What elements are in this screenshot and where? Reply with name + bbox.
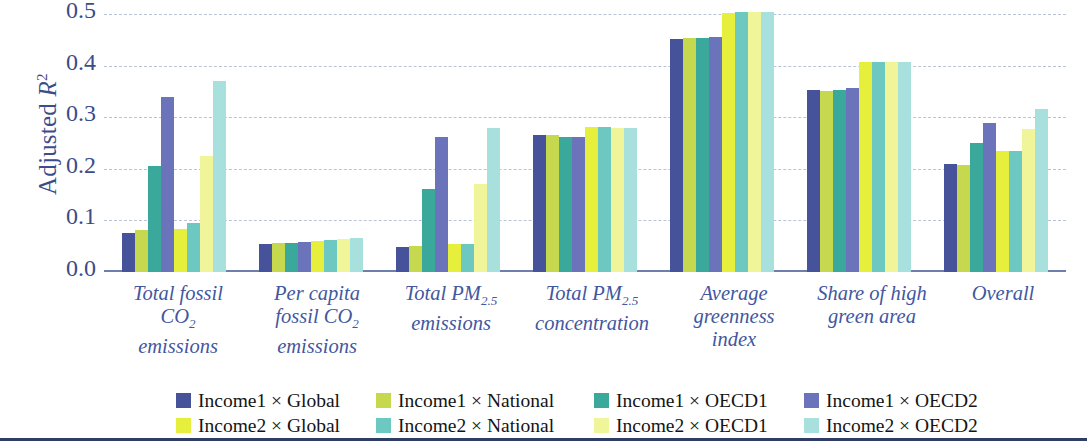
legend-item[interactable]: Income1 × OECD2 — [804, 390, 1009, 412]
bar[interactable] — [272, 243, 285, 272]
bar[interactable] — [135, 230, 148, 272]
bar[interactable] — [324, 240, 337, 272]
legend-label: Income2 × National — [398, 415, 554, 437]
x-axis-category-labels: Total fossilCO2emissionsPer capitafossil… — [104, 282, 1066, 378]
bar-chart: Adjusted R2 0.00.10.20.30.40.5 Total fos… — [0, 0, 1087, 441]
legend-label: Income1 × Global — [198, 390, 340, 412]
bar[interactable] — [200, 156, 213, 272]
bar[interactable] — [624, 128, 637, 272]
y-axis-title-symbol: R — [34, 81, 61, 96]
legend-label: Income2 × OECD2 — [826, 415, 978, 437]
bar[interactable] — [174, 229, 187, 272]
y-axis-tick-label: 0.5 — [40, 0, 96, 24]
y-axis-tick-label: 0.3 — [40, 100, 96, 127]
legend-item[interactable]: Income1 × National — [376, 390, 594, 412]
bar[interactable] — [846, 88, 859, 272]
chart-legend: Income1 × GlobalIncome1 × NationalIncome… — [176, 388, 1076, 438]
bar-group — [259, 14, 363, 272]
bar[interactable] — [996, 151, 1009, 272]
bar[interactable] — [337, 239, 350, 272]
bar[interactable] — [872, 62, 885, 272]
x-axis-category-label: Share of highgreen area — [801, 282, 943, 378]
bar[interactable] — [187, 223, 200, 272]
bar[interactable] — [474, 184, 487, 272]
legend-swatch — [176, 393, 191, 408]
legend-item[interactable]: Income2 × OECD1 — [594, 415, 804, 437]
bar[interactable] — [598, 127, 611, 272]
bar[interactable] — [161, 97, 174, 272]
bar[interactable] — [885, 62, 898, 272]
bar[interactable] — [670, 39, 683, 272]
bar[interactable] — [735, 12, 748, 272]
bar-group — [396, 14, 500, 272]
bar[interactable] — [957, 165, 970, 272]
bar[interactable] — [213, 81, 226, 272]
bar[interactable] — [409, 246, 422, 272]
legend-label: Income1 × OECD2 — [826, 390, 978, 412]
bar[interactable] — [559, 137, 572, 272]
bar[interactable] — [448, 244, 461, 272]
bar[interactable] — [546, 135, 559, 272]
bar[interactable] — [285, 243, 298, 272]
bar[interactable] — [298, 242, 311, 272]
bar[interactable] — [435, 137, 448, 272]
y-axis-tick-label: 0.2 — [40, 152, 96, 179]
legend-swatch — [804, 393, 819, 408]
x-axis-category-label: Averagegreennessindex — [668, 282, 800, 378]
bar[interactable] — [461, 244, 474, 272]
x-axis-category-label: Total PM2.5emissions — [386, 282, 516, 378]
plot-area — [104, 14, 1066, 272]
bar[interactable] — [1009, 151, 1022, 272]
bar[interactable] — [944, 164, 957, 272]
bar[interactable] — [572, 137, 585, 272]
legend-label: Income1 × OECD1 — [616, 390, 768, 412]
bar[interactable] — [807, 90, 820, 272]
bar[interactable] — [1035, 109, 1048, 272]
legend-label: Income1 × National — [398, 390, 554, 412]
bar[interactable] — [696, 38, 709, 272]
x-axis-category-label: Per capitafossil CO2emissions — [249, 282, 385, 378]
legend-item[interactable]: Income1 × Global — [176, 390, 376, 412]
bar[interactable] — [422, 189, 435, 272]
x-axis-category-label: Total fossilCO2emissions — [108, 282, 248, 378]
bar-group — [944, 14, 1048, 272]
bar[interactable] — [820, 91, 833, 272]
bar-group — [807, 14, 911, 272]
bar[interactable] — [259, 244, 272, 272]
bar[interactable] — [898, 62, 911, 272]
bar[interactable] — [983, 123, 996, 272]
bar[interactable] — [1022, 129, 1035, 272]
legend-item[interactable]: Income2 × National — [376, 415, 594, 437]
bar[interactable] — [970, 143, 983, 272]
bar[interactable] — [748, 12, 761, 272]
bar[interactable] — [533, 135, 546, 272]
legend-item[interactable]: Income2 × Global — [176, 415, 376, 437]
x-axis-category-label: Total PM2.5concentration — [517, 282, 667, 378]
bar[interactable] — [122, 233, 135, 272]
bar[interactable] — [487, 128, 500, 272]
y-axis-tick-label: 0.1 — [40, 203, 96, 230]
bar-group — [670, 14, 774, 272]
bar-group — [533, 14, 637, 272]
bar[interactable] — [761, 12, 774, 272]
legend-item[interactable]: Income2 × OECD2 — [804, 415, 1009, 437]
bar[interactable] — [722, 13, 735, 272]
bar[interactable] — [859, 62, 872, 272]
legend-label: Income2 × Global — [198, 415, 340, 437]
legend-swatch — [376, 418, 391, 433]
legend-swatch — [594, 393, 609, 408]
bar[interactable] — [311, 241, 324, 272]
bar-groups — [104, 14, 1066, 272]
bar[interactable] — [148, 166, 161, 272]
bar[interactable] — [396, 247, 409, 272]
bar[interactable] — [611, 128, 624, 272]
bar[interactable] — [585, 127, 598, 272]
bar[interactable] — [833, 90, 846, 272]
legend-item[interactable]: Income1 × OECD1 — [594, 390, 804, 412]
legend-label: Income2 × OECD1 — [616, 415, 768, 437]
bar[interactable] — [350, 238, 363, 272]
legend-swatch — [594, 418, 609, 433]
bar[interactable] — [683, 38, 696, 272]
bar[interactable] — [709, 37, 722, 272]
legend-swatch — [804, 418, 819, 433]
